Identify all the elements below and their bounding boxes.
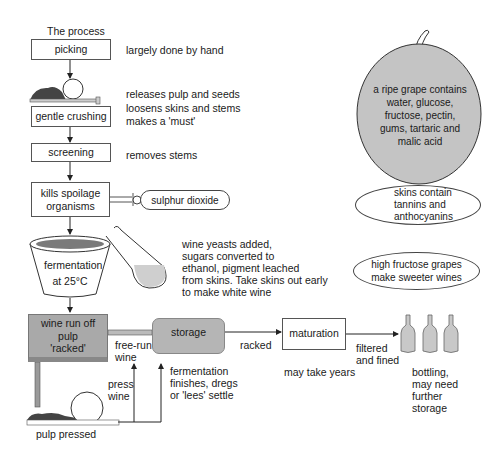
- label-press-wine: press wine: [108, 378, 134, 402]
- step-gentle-crushing: gentle crushing: [31, 106, 111, 127]
- sulphur-valve-icon: [110, 193, 141, 206]
- fact-fructose: high fructose grapes make sweeter wines: [353, 252, 480, 290]
- drain-pipe: [35, 362, 40, 407]
- step-kills-spoilage: kills spoilage organisms: [31, 182, 110, 217]
- bottles-icon: [401, 315, 458, 353]
- arrow-press-storage: [134, 364, 161, 422]
- step-screening: screening: [31, 143, 111, 162]
- diagram-title: The process: [47, 25, 105, 37]
- step-picking: picking: [31, 39, 111, 60]
- label-racked: racked: [240, 339, 272, 351]
- note-bottling: bottling, may need further storage: [412, 366, 458, 414]
- label-free-run-wine: free-run wine: [115, 339, 152, 363]
- note-picking: largely done by hand: [126, 44, 224, 56]
- free-run-pipe: [108, 330, 152, 335]
- note-storage: fermentation finishes, dregs or 'lees' s…: [170, 365, 238, 401]
- note-maturation: may take years: [284, 366, 355, 378]
- note-crushing: releases pulp and seeds loosens skins an…: [126, 88, 240, 129]
- flow-connectors: [0, 0, 483, 456]
- crusher-icon: [30, 79, 100, 104]
- step-maturation: maturation: [282, 318, 346, 350]
- yeast-flask-icon: [106, 226, 166, 288]
- step-racking: wine run off pulp 'racked': [28, 314, 108, 362]
- additive-sulphur-dioxide: sulphur dioxide: [140, 190, 230, 210]
- note-fermentation: wine yeasts added, sugars converted to e…: [182, 238, 328, 298]
- note-screening: removes stems: [126, 149, 197, 161]
- fact-skins: skins contain tannins and anthocyanins: [355, 185, 481, 225]
- fact-ripe-grape: a ripe grape contains water, glucose, fr…: [362, 83, 478, 148]
- label-filtered-fined: filtered and fined: [356, 342, 399, 366]
- press-icon: [27, 392, 119, 425]
- step-fermentation: fermentation at 25°C: [44, 257, 96, 289]
- step-storage: storage: [152, 318, 225, 354]
- step-pulp-pressed: pulp pressed: [36, 428, 96, 440]
